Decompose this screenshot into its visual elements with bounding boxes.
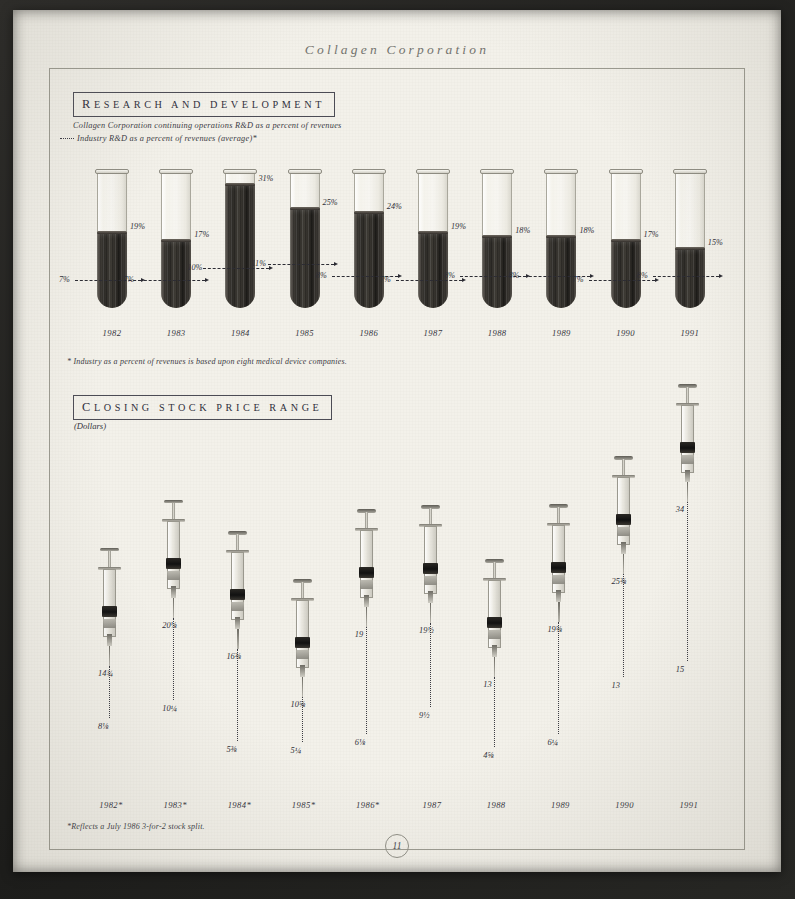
syringe-luer-tip <box>556 590 561 602</box>
stock-low-label: 4⅝ <box>483 751 493 760</box>
test-tube-rim <box>416 169 450 174</box>
price-range-line <box>687 502 688 661</box>
test-tube-fill <box>354 212 384 308</box>
industry-average-line <box>139 280 205 281</box>
stock-year-label: 1990 <box>601 800 649 810</box>
industry-percent-label: 8% <box>316 271 327 280</box>
test-tube-rim <box>95 169 129 174</box>
syringe-plunger-stopper <box>680 442 695 453</box>
rd-percent-label: 18% <box>515 226 530 235</box>
syringe <box>290 579 316 697</box>
test-tube-fill <box>97 232 127 308</box>
syringe <box>611 456 637 574</box>
syringe <box>97 548 123 666</box>
rd-year-label: 1982 <box>88 328 136 338</box>
syringe-luer-tip <box>428 591 433 603</box>
stock-year-label: 1988 <box>472 800 520 810</box>
syringe-luer-tip <box>171 586 176 598</box>
report-page-sheet: Collagen Corporation RESEARCH AND DEVELO… <box>13 10 781 872</box>
rd-percent-label: 25% <box>323 198 338 207</box>
syringe-needle <box>173 598 174 618</box>
test-tube-rim <box>159 169 193 174</box>
test-tube-rim <box>609 169 643 174</box>
rd-footnote: * Industry as a percent of revenues is b… <box>67 357 347 366</box>
price-range-line <box>173 618 174 700</box>
syringe-plunger-stopper <box>551 562 566 573</box>
stock-low-label: 5¼ <box>291 746 301 755</box>
stock-high-label: 25⅜ <box>612 577 627 586</box>
stock-year-label: 1986* <box>344 800 392 810</box>
industry-line-arrow-icon <box>462 278 466 282</box>
fill-meniscus <box>290 207 320 210</box>
syringe <box>418 505 444 623</box>
test-tube-fill <box>418 232 448 308</box>
fill-meniscus <box>482 235 512 238</box>
syringe-luer-tip <box>621 542 626 554</box>
fill-meniscus <box>611 239 641 242</box>
stock-year-label: 1984* <box>215 800 263 810</box>
price-range-line <box>430 623 431 707</box>
syringe-plunger-rod <box>493 562 496 578</box>
syringe-collar-band <box>296 650 309 659</box>
industry-percent-label: 8% <box>637 271 648 280</box>
dashed-line-swatch-icon <box>60 138 74 139</box>
syringe-collar-band <box>617 527 630 536</box>
industry-line-arrow-icon <box>269 266 273 270</box>
stock-price-syringe-chart: 14¾8⅛1982*20⅛10¼1983*16⅜5⅜1984*10⅝5¼1985… <box>49 418 743 810</box>
test-tube-rim <box>223 169 257 174</box>
syringe-needle <box>494 657 495 677</box>
section-heading-research-and-development: RESEARCH AND DEVELOPMENT <box>73 92 335 117</box>
syringe-plunger-rod <box>686 387 689 403</box>
stock-high-label: 13 <box>483 680 491 689</box>
stock-low-label: 15 <box>676 665 684 674</box>
price-range-line <box>623 574 624 677</box>
rd-year-label: 1984 <box>216 328 264 338</box>
industry-percent-label: 7% <box>59 275 70 284</box>
industry-line-arrow-icon <box>719 274 723 278</box>
stock-high-label: 10⅝ <box>291 700 306 709</box>
syringe-plunger-stopper <box>102 606 117 617</box>
industry-line-arrow-icon <box>205 278 209 282</box>
stock-low-label: 5⅜ <box>226 745 236 754</box>
syringe-plunger-rod <box>429 508 432 524</box>
industry-line-arrow-icon <box>334 262 338 266</box>
syringe-needle <box>302 677 303 697</box>
fill-meniscus <box>546 235 576 238</box>
syringe-needle <box>366 607 367 627</box>
stock-year-label: 1991 <box>665 800 713 810</box>
syringe-plunger-stopper <box>295 637 310 648</box>
syringe-luer-tip <box>107 634 112 646</box>
test-tube-fill <box>546 236 576 308</box>
syringe-collar-band <box>231 602 244 611</box>
industry-average-line <box>268 264 334 265</box>
syringe-collar-band <box>167 571 180 580</box>
syringe <box>546 504 572 622</box>
test-tube-rim <box>544 169 578 174</box>
rd-percent-label: 17% <box>644 230 659 239</box>
syringe-plunger-stopper <box>230 589 245 600</box>
stock-year-label: 1982* <box>87 800 135 810</box>
stock-low-label: 13 <box>612 681 620 690</box>
price-range-line <box>558 622 559 734</box>
test-tube-rim <box>288 169 322 174</box>
rd-year-label: 1986 <box>345 328 393 338</box>
test-tube-rim <box>673 169 707 174</box>
syringe-luer-tip <box>364 595 369 607</box>
syringe-plunger-stopper <box>423 563 438 574</box>
industry-average-line <box>396 280 462 281</box>
syringe-needle <box>623 554 624 574</box>
syringe-luer-tip <box>300 665 305 677</box>
industry-percent-label: 11% <box>252 259 266 268</box>
rd-percent-label: 19% <box>451 222 466 231</box>
syringe <box>225 531 251 649</box>
rd-year-label: 1990 <box>602 328 650 338</box>
rd-percent-label: 19% <box>130 222 145 231</box>
syringe-plunger-rod <box>365 512 368 528</box>
section-heading-text: ESEARCH AND DEVELOPMENT <box>94 99 325 110</box>
syringe-plunger-rod <box>172 503 175 519</box>
stock-year-label: 1985* <box>280 800 328 810</box>
rd-percent-label: 18% <box>579 226 594 235</box>
syringe-collar-band <box>103 619 116 628</box>
syringe-luer-tip <box>685 470 690 482</box>
rd-year-label: 1991 <box>666 328 714 338</box>
